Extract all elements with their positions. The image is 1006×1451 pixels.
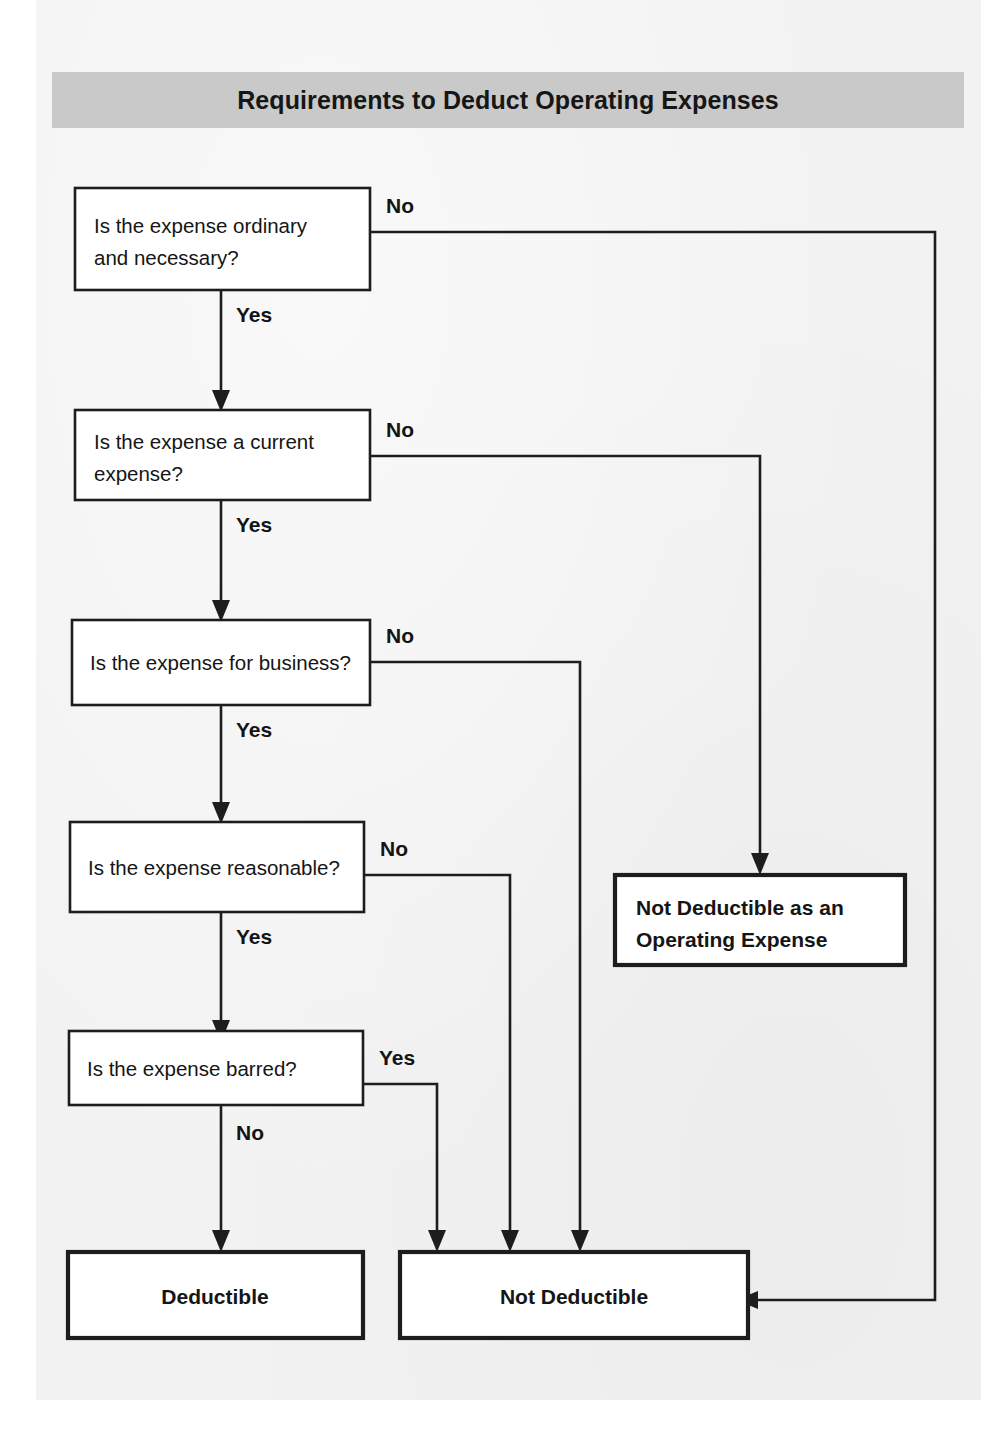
edge-q2-no: No [370,418,769,875]
edge-q3-no-arrowhead [571,1230,589,1252]
edge-label-q5-no: No [236,1121,264,1144]
edge-label-q3-yes: Yes [236,718,272,741]
edge-q3-yes: Yes [212,705,272,824]
edge-q4-no-arrowhead [501,1230,519,1252]
node-not-deductible-operating-line2: Operating Expense [636,928,827,951]
edge-label-q3-no: No [386,624,414,647]
node-q3[interactable]: Is the expense for business? [72,620,370,705]
edge-q1-no-line [370,232,935,1300]
node-q4-line1: Is the expense reasonable? [88,856,340,879]
node-deductible[interactable]: Deductible [68,1252,363,1338]
node-q1[interactable]: Is the expense ordinary and necessary? [75,188,370,290]
node-deductible-label: Deductible [161,1285,268,1308]
edge-q5-no: No [212,1105,264,1252]
node-q3-line1: Is the expense for business? [90,651,351,674]
node-q4[interactable]: Is the expense reasonable? [70,822,364,912]
node-q1-line1: Is the expense ordinary [94,214,308,237]
edge-q5-yes-arrowhead [428,1230,446,1252]
edge-q4-no: No [364,837,519,1252]
flowchart-canvas: Yes Yes Yes Yes No No No No [0,0,1006,1451]
edge-q4-yes: Yes [212,912,272,1042]
node-not-deductible-operating-box[interactable] [615,875,905,965]
edge-label-q1-yes: Yes [236,303,272,326]
node-q5-line1: Is the expense barred? [87,1057,297,1080]
edge-label-q4-yes: Yes [236,925,272,948]
edge-label-q2-yes: Yes [236,513,272,536]
edge-label-q4-no: No [380,837,408,860]
node-q2-line1: Is the expense a current [94,430,314,453]
edge-q3-no-line [370,662,580,1240]
node-q2-line2: expense? [94,462,183,485]
edge-label-q2-no: No [386,418,414,441]
edge-q1-yes: Yes [212,290,272,412]
edge-q5-yes: Yes [363,1046,446,1252]
node-q1-line2: and necessary? [94,246,239,269]
edge-q3-no: No [370,624,589,1252]
edge-label-q1-no: No [386,194,414,217]
node-q2[interactable]: Is the expense a current expense? [75,410,370,500]
node-not-deductible-label: Not Deductible [500,1285,648,1308]
node-not-deductible[interactable]: Not Deductible [400,1252,748,1338]
node-q2-box[interactable] [75,410,370,500]
edge-q5-no-arrowhead [212,1230,230,1252]
edge-q2-yes: Yes [212,500,272,622]
edge-q2-no-arrowhead [751,853,769,875]
edge-q2-no-line [370,456,760,863]
node-q5[interactable]: Is the expense barred? [69,1031,363,1105]
node-q1-box[interactable] [75,188,370,290]
edge-q1-no: No [370,194,935,1309]
edge-q5-yes-line [363,1084,437,1240]
node-not-deductible-operating-line1: Not Deductible as an [636,896,844,919]
node-not-deductible-operating[interactable]: Not Deductible as an Operating Expense [615,875,905,965]
edge-label-q5-yes: Yes [379,1046,415,1069]
